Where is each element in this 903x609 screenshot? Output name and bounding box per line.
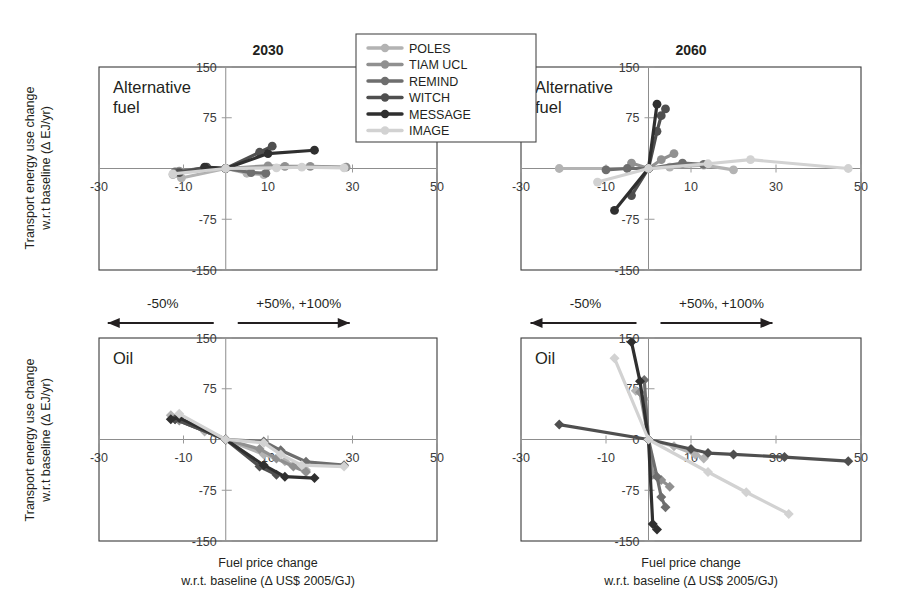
legend: POLESTIAM UCLREMINDWITCHMESSAGEIMAGE [356,34,536,142]
y-tick-label: 150 [196,61,217,75]
x-tick-label: 10 [684,180,698,194]
y-tick-label: -150 [614,535,639,549]
panel-title: 2030 [252,42,283,58]
legend-label: IMAGE [409,124,449,138]
price-direction-annotation: -50%+50%, +100% [531,296,773,328]
data-point-marker [657,155,666,164]
legend-label: WITCH [409,91,450,105]
data-point-marker [729,449,739,459]
series-group [555,100,853,215]
x-tick-label: -10 [174,451,192,465]
x-tick-label: -30 [512,180,530,194]
data-point-marker [602,165,611,174]
data-point-marker [610,353,620,363]
x-tick-label: -30 [512,451,530,465]
data-point-marker [661,105,670,114]
legend-swatch-marker [381,126,389,134]
y-tick-label: 75 [203,111,217,125]
data-point-marker [554,420,564,430]
legend-label: MESSAGE [409,108,471,122]
chart-panel-alt-fuel-2060: 15075-75-150-30-101030502060Alternativef… [512,42,868,278]
x-tick-label: 50 [430,451,444,465]
y-axis-title-line1: Transport energy use change [23,359,37,522]
data-point-marker [272,163,281,172]
data-point-marker [310,146,319,155]
data-point-marker [644,164,653,173]
y-tick-label: 0 [633,433,640,447]
y-tick-label: -75 [621,213,639,227]
data-point-marker [729,165,738,174]
data-point-marker [610,206,619,215]
data-point-marker [670,149,679,158]
series-group [554,337,853,534]
legend-swatch-marker [381,93,389,101]
x-axis-title-line1: Fuel price change [641,556,740,570]
data-point-marker [268,142,277,151]
x-tick-label: -30 [90,451,108,465]
panel-tag: Oil [113,349,133,367]
panel-tag: Alternative [535,78,613,96]
panel-tag: Alternative [113,78,191,96]
data-point-marker [593,178,602,187]
data-point-marker [844,164,853,173]
panel-tag-line2: fuel [113,98,140,116]
panel-tag: Oil [535,349,555,367]
data-point-marker [169,170,178,179]
x-tick-label: 30 [346,451,360,465]
panel-tag-line2: fuel [535,98,562,116]
annotation-decrease-label: -50% [570,296,602,311]
y-axis-title-line1: Transport energy use change [23,87,37,250]
legend-label: REMIND [409,75,458,89]
y-axis-title-line2: w.r.t baseline (Δ EJ/yr) [39,378,53,503]
annotation-right-arrow-head [761,318,773,328]
x-tick-label: 50 [854,180,868,194]
y-tick-label: 75 [626,111,640,125]
y-tick-label: -75 [199,484,217,498]
y-tick-label: -150 [192,535,217,549]
data-point-marker [221,164,230,173]
y-tick-label: 75 [203,382,217,396]
y-tick-label: -150 [192,264,217,278]
legend-swatch-marker [381,60,389,68]
data-point-marker [843,456,853,466]
x-axis-title-line2: w.r.t. baseline (Δ US$ 2005/GJ) [180,574,355,588]
data-point-marker [623,164,632,173]
x-tick-label: 10 [261,180,275,194]
data-point-marker [656,492,666,502]
x-tick-label: -10 [597,451,615,465]
legend-swatch-marker [381,77,389,85]
figure-root: 15075-75-150-30-101030502030Alternativef… [0,0,903,609]
data-point-marker [704,159,713,168]
data-point-marker [555,164,564,173]
annotation-right-arrow-head [338,318,350,328]
legend-label: POLES [409,42,451,56]
annotation-increase-label: +50%, +100% [256,296,341,311]
data-point-marker [297,163,306,172]
y-tick-label: 150 [619,61,640,75]
chart-panel-oil-2030: 150750-75-150-30-10103050Oil [90,332,444,549]
annotation-decrease-label: -50% [147,296,179,311]
y-tick-label: 150 [196,332,217,346]
legend-swatch-marker [381,44,389,52]
data-point-marker [261,169,270,178]
annotation-left-arrow-head [108,318,120,328]
data-point-marker [264,149,273,158]
chart-canvas: 15075-75-150-30-101030502030Alternativef… [0,0,903,609]
y-tick-label: -150 [614,264,639,278]
data-point-marker [309,473,319,483]
series-group [166,409,349,483]
legend-swatch-marker [381,110,389,118]
x-axis-title-line2: w.r.t. baseline (Δ US$ 2005/GJ) [603,574,778,588]
x-tick-label: 30 [346,180,360,194]
y-axis-title-line2: w.r.t baseline (Δ EJ/yr) [39,106,53,231]
x-tick-label: -30 [90,180,108,194]
data-point-marker [653,100,662,109]
data-point-marker [340,163,349,172]
data-point-marker [746,155,755,164]
chart-panel-oil-2060: 150750-75-150-30-10103050Oil [512,332,868,549]
legend-label: TIAM UCL [409,58,467,72]
y-tick-label: -75 [199,213,217,227]
data-point-marker [661,502,671,512]
price-direction-annotation: -50%+50%, +100% [108,296,350,328]
panel-title: 2060 [675,42,706,58]
